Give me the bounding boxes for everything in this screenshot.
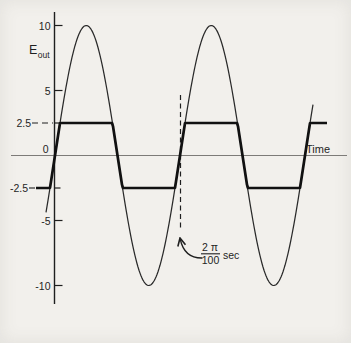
period-fraction-denominator: 100 xyxy=(202,254,220,266)
y-tick-label: -5 xyxy=(41,215,50,227)
y-tick-label-0: 0 xyxy=(43,143,49,155)
y-tick-label: 2.5 xyxy=(16,117,31,129)
period-fraction-numerator: 2 π xyxy=(202,241,218,253)
figure-canvas: 1052.50-2.5-5-10 Eout Time 2 π 100 sec xyxy=(0,0,351,343)
waveform-chart: 1052.50-2.5-5-10 Eout Time 2 π 100 sec xyxy=(0,0,351,343)
y-tick-label: 10 xyxy=(39,20,51,32)
period-annotation-arrow xyxy=(180,240,202,259)
period-unit: sec xyxy=(223,249,239,261)
y-axis-title: Eout xyxy=(29,43,50,60)
y-axis-title-sub: out xyxy=(38,50,50,60)
y-tick-label: -10 xyxy=(35,280,50,292)
x-axis-title: Time xyxy=(306,143,330,155)
y-axis-title-main: E xyxy=(29,43,37,57)
y-tick-label: 5 xyxy=(45,85,51,97)
y-tick-label: -2.5 xyxy=(10,182,28,194)
period-annotation: 2 π 100 sec xyxy=(201,241,239,266)
